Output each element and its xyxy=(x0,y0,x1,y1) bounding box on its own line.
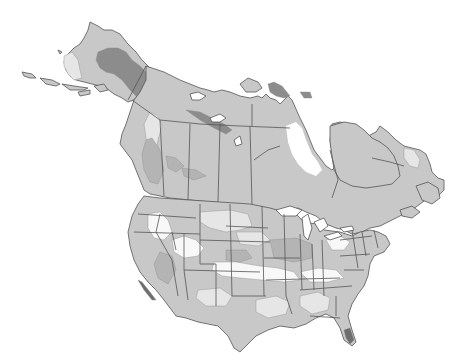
north-america-zone-map xyxy=(0,0,460,363)
map-canvas xyxy=(0,0,460,363)
